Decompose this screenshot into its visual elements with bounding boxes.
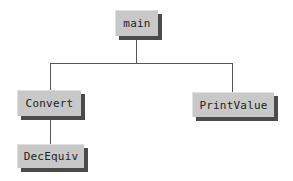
edge-to-convert [50, 63, 51, 90]
edge-convert-to-decequiv [50, 120, 51, 144]
edge-to-printvalue [232, 63, 233, 92]
node-decequiv-box: DecEquiv [17, 144, 84, 168]
node-convert-box: Convert [17, 90, 81, 116]
node-main-box: main [115, 10, 158, 36]
node-printvalue-box: PrintValue [192, 92, 274, 117]
edge-main-down [136, 39, 137, 64]
edge-horizontal-bar [50, 63, 233, 64]
